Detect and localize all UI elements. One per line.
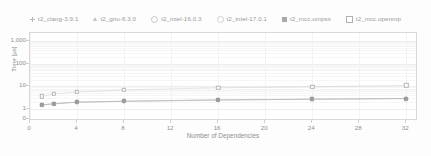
y-axis-title: Time [µs]	[11, 29, 17, 89]
x-axis: 048121620242832	[29, 120, 417, 132]
legend-item-t2-mcc-ompss[interactable]: t2_mcc.ompss	[282, 16, 331, 22]
data-series-layer	[30, 33, 416, 119]
x-axis-tick-label: 28	[355, 125, 362, 131]
legend-label: t2_intel-16.0.3	[161, 16, 201, 22]
series-line	[42, 99, 406, 105]
x-axis-tick-mark	[217, 120, 218, 123]
data-point	[40, 94, 44, 98]
x-axis-tick-mark	[311, 120, 312, 123]
data-point	[310, 85, 314, 89]
data-point	[40, 103, 44, 107]
legend-label: t2_clang-3.9.1	[38, 16, 78, 22]
legend-item-t2-intel-16[interactable]: t2_intel-16.0.3	[151, 16, 201, 23]
data-point	[122, 88, 126, 92]
series-line	[42, 85, 406, 96]
x-axis-tick-mark	[405, 120, 406, 123]
legend-label: t2_gnu-6.3.0	[100, 16, 136, 22]
circle-open-icon	[151, 16, 158, 23]
y-axis-tick-label: 10	[19, 82, 26, 88]
plot-area	[29, 32, 417, 120]
data-point	[51, 102, 55, 106]
x-axis-tick-label: 16	[214, 125, 221, 131]
x-axis-tick-mark	[76, 120, 77, 123]
x-axis-tick-label: 4	[74, 125, 77, 131]
data-point	[404, 96, 408, 100]
x-axis-tick-mark	[170, 120, 171, 123]
y-axis-tick-label: 100	[16, 60, 26, 66]
x-axis-tick-mark	[123, 120, 124, 123]
square-filled-icon	[282, 17, 287, 22]
plus-icon	[30, 17, 35, 22]
series-connector-lines	[30, 33, 416, 119]
data-point	[122, 99, 126, 103]
x-axis-tick-label: 20	[261, 125, 268, 131]
legend-label: t2_mcc.ompss	[290, 16, 331, 22]
legend-item-t2-mcc-openmp[interactable]: t2_mcc.openmp	[346, 16, 401, 23]
data-point	[51, 92, 55, 96]
x-axis-tick-label: 32	[402, 125, 409, 131]
x-axis-tick-label: 12	[167, 125, 174, 131]
legend-item-t2-gnu[interactable]: t2_gnu-6.3.0	[93, 16, 136, 22]
x-axis-title: Number of Dependencies	[29, 133, 417, 139]
triangle-open-icon	[93, 17, 97, 21]
x-axis-tick-label: 0	[27, 125, 30, 131]
legend-item-t2-intel-17[interactable]: t2_intel-17.0.1	[217, 16, 267, 23]
data-point	[310, 97, 314, 101]
x-axis-tick-mark	[29, 120, 30, 123]
x-axis-tick-mark	[264, 120, 265, 123]
chart-figure: t2_clang-3.9.1 t2_gnu-6.3.0 t2_intel-16.…	[0, 0, 431, 156]
data-point	[75, 100, 79, 104]
circle-open-icon	[217, 16, 224, 23]
data-point	[216, 98, 220, 102]
legend-label: t2_mcc.openmp	[356, 16, 401, 22]
legend-label: t2_intel-17.0.1	[227, 16, 267, 22]
chart-legend: t2_clang-3.9.1 t2_gnu-6.3.0 t2_intel-16.…	[0, 11, 431, 28]
x-axis-tick-label: 24	[308, 125, 315, 131]
data-point	[75, 90, 79, 94]
legend-item-t2-clang[interactable]: t2_clang-3.9.1	[30, 16, 78, 22]
square-open-icon	[346, 16, 353, 23]
x-axis-tick-mark	[358, 120, 359, 123]
data-point	[216, 86, 220, 90]
x-axis-tick-label: 8	[121, 125, 124, 131]
data-point	[404, 83, 408, 87]
